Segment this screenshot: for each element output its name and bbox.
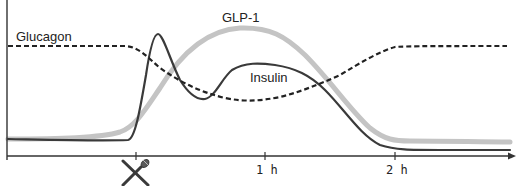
tick-label-1h: 1 h (256, 163, 278, 177)
glucagon-label: Glucagon (16, 29, 72, 44)
glp1-label: GLP-1 (222, 10, 260, 25)
insulin-label: Insulin (250, 70, 288, 85)
insulin-line (8, 34, 510, 150)
x-axis-arrow-icon (508, 153, 516, 160)
tick-label-2h: 2 h (386, 163, 408, 177)
fork-knife-meal-icon (123, 158, 150, 185)
hormone-response-chart (0, 0, 520, 186)
